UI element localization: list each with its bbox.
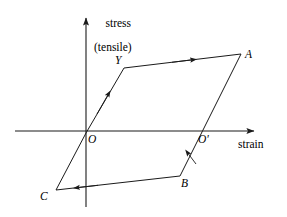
point-label-a: A — [245, 48, 252, 60]
point-label-o-prime: O' — [198, 133, 209, 145]
point-label-b: B — [181, 177, 188, 189]
y-axis-label-line2: (tensile) — [94, 41, 132, 53]
y-axis-label: stress (tensile) — [94, 5, 132, 77]
arrow-y-to-a — [172, 60, 194, 63]
arrow-o-to-y — [97, 93, 109, 114]
x-axis-label: strain — [238, 138, 264, 150]
point-label-o: O — [88, 133, 96, 145]
point-label-y: Y — [115, 54, 121, 66]
segment-c-to-o — [56, 133, 86, 190]
stress-strain-diagram: stress (tensile) strain O Y A O' B C — [0, 0, 287, 217]
y-axis-label-line1: stress — [106, 17, 132, 29]
segment-b-to-c — [56, 176, 180, 190]
point-label-c: C — [40, 190, 48, 202]
diagram-canvas — [0, 0, 287, 217]
arrow-b-to-c — [76, 185, 98, 188]
segment-a-to-b — [180, 54, 241, 176]
